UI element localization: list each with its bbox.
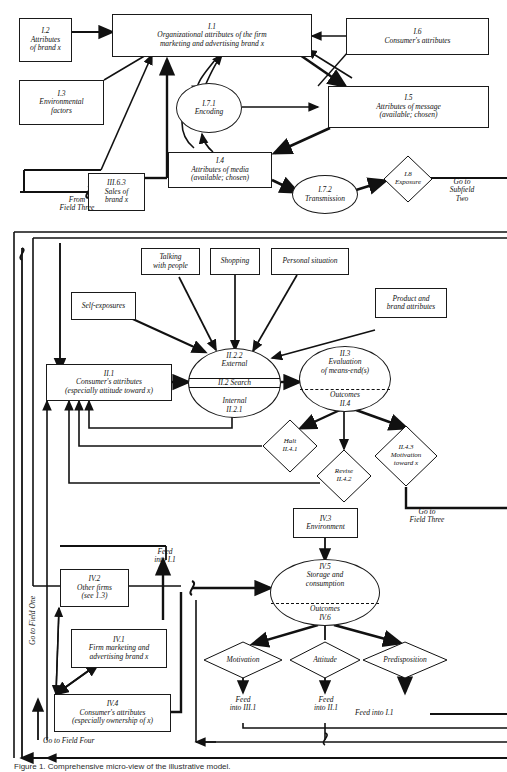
node-label: Revise II.4.2	[335, 468, 353, 484]
connector-go-to-field-three: Go to Field Three	[396, 508, 458, 525]
connector-go-to-subfield-two: Go to Subfield Two	[436, 178, 488, 203]
node-IV-1[interactable]: IV.1 Firm marketing and advertising bran…	[71, 629, 167, 668]
node-IV-5[interactable]: IV.5 Storage and consumption Outcomes IV…	[270, 559, 380, 626]
connector-from-field-three: From Field Three	[44, 196, 110, 213]
figure-caption: Figure 1. Comprehensive micro-view of th…	[14, 762, 231, 771]
connector-go-to-field-one: Go to Field One	[28, 596, 37, 645]
node-shopping[interactable]: Shopping	[210, 248, 260, 275]
node-II-2-search[interactable]: II.2.2 External II.2 Search Internal II.…	[188, 348, 281, 418]
node-II-2-1-internal: Internal II.2.1	[222, 397, 246, 414]
node-IV-5-label: IV.5 Storage and consumption	[306, 563, 344, 588]
node-I-1[interactable]: I.1 Organizational attributes of the fir…	[112, 14, 312, 57]
node-II-3[interactable]: II.3 Evaluation of means-end(s) Outcomes…	[299, 346, 391, 412]
connector-feed-into-I1-upper: Feed into I.1	[140, 548, 190, 565]
node-II-4-2-revise[interactable]: Revise II.4.2	[316, 449, 372, 503]
node-predisposition[interactable]: Predisposition	[362, 641, 448, 679]
connector-feed-into-II1: Feed into II.1	[297, 696, 355, 713]
node-label: II.4.3 Motivation toward x	[391, 444, 422, 467]
node-motivation[interactable]: Motivation	[203, 641, 283, 679]
diagram-canvas: I.2 Attributes of brand x I.3 Environmen…	[0, 0, 507, 772]
node-IV-2[interactable]: IV.2 Other firms (see 1.3)	[60, 569, 129, 607]
connector-feed-into-I1-lower: Feed into I.1	[355, 709, 431, 717]
node-II-4-outcomes: Outcomes II.4	[300, 389, 390, 408]
node-label: I.8 Exposure	[395, 171, 421, 187]
node-I-8[interactable]: I.8 Exposure	[383, 155, 433, 203]
node-IV-4[interactable]: IV.4 Consumer's attributes (especially o…	[54, 694, 171, 732]
node-attitude[interactable]: Attitude	[289, 641, 361, 679]
connector-go-to-field-four: Go to Field Four	[43, 737, 153, 745]
node-talking-with-people[interactable]: Talking with people	[141, 248, 200, 275]
node-IV-6-outcomes: Outcomes IV.6	[271, 603, 379, 622]
node-I-7-1[interactable]: I.7.1 Encoding	[176, 83, 242, 133]
node-I-5[interactable]: I.5 Attributes of message (available; ch…	[328, 86, 489, 128]
node-II-2-2-external: II.2.2 External	[222, 352, 248, 369]
node-label: Attitude	[313, 656, 337, 664]
node-label: Halt II.4.1	[282, 438, 297, 454]
node-product-and-brand-attributes[interactable]: Product and brand attributes	[375, 288, 447, 318]
connector-feed-into-III1: Feed into III.1	[212, 696, 274, 713]
node-IV-3[interactable]: IV.3 Environment	[293, 508, 358, 538]
node-II-4-3-motivation[interactable]: II.4.3 Motivation toward x	[374, 425, 438, 487]
node-I-3[interactable]: I.3 Environmental factors	[19, 80, 104, 125]
node-label: Predisposition	[383, 656, 426, 664]
node-I-7-2[interactable]: I.7.2 Transmission	[292, 175, 358, 214]
node-self-exposures[interactable]: Self-exposures	[71, 292, 136, 320]
node-personal-situation[interactable]: Personal situation	[271, 248, 349, 275]
node-I-6[interactable]: I.6 Consumer's attributes	[346, 18, 489, 55]
node-II-3-label: II.3 Evaluation of means-end(s)	[321, 350, 369, 375]
node-label: Motivation	[227, 656, 260, 664]
node-I-2[interactable]: I.2 Attributes of brand x	[19, 18, 72, 62]
node-II-4-1-halt[interactable]: Halt II.4.1	[262, 419, 318, 473]
node-I-4[interactable]: I.4 Attributes of media (available; chos…	[168, 152, 272, 188]
node-II-2-search-label: II.2 Search	[189, 378, 280, 388]
node-II-1[interactable]: II.1 Consumer's attributes (especially a…	[46, 364, 172, 401]
